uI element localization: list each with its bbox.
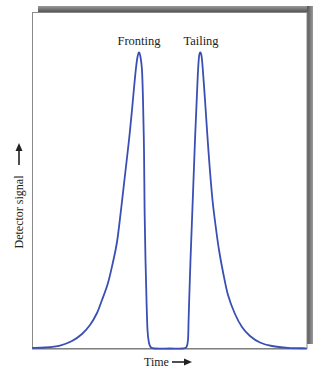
fronting-label: Fronting <box>117 34 161 48</box>
y-axis-label: Detector signal <box>12 175 26 249</box>
plot-frame <box>33 13 308 349</box>
y-axis-label-group: Detector signal <box>12 143 26 248</box>
tailing-label: Tailing <box>183 34 219 48</box>
chart: Fronting Tailing Time Detector signal <box>0 0 325 380</box>
x-axis-label: Time <box>144 355 169 369</box>
arrow-right-icon <box>172 359 192 366</box>
x-axis-label-group: Time <box>144 355 192 369</box>
chart-svg: Fronting Tailing Time Detector signal <box>0 0 325 380</box>
arrow-up-icon <box>16 143 23 165</box>
